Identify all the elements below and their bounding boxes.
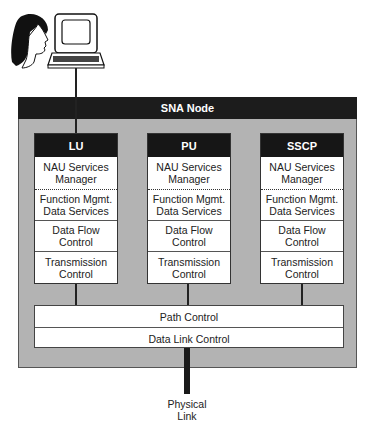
sscp-column: SSCP NAU Services Manager Function Mgmt.… (260, 133, 344, 284)
person-head-icon (8, 12, 52, 72)
sscp-connector (301, 284, 303, 305)
sscp-header: SSCP (261, 134, 343, 157)
sscp-function-mgmt-data-services: Function Mgmt. Data Services (261, 190, 343, 221)
sscp-transmission-control: Transmission Control (261, 252, 343, 283)
sscp-data-flow-control: Data Flow Control (261, 221, 343, 252)
lu-column: LU NAU Services Manager Function Mgmt. D… (34, 133, 118, 284)
path-control: Path Control (35, 306, 343, 328)
physical-link-label-line1: Physical (150, 398, 224, 410)
lu-connector (75, 284, 77, 305)
lu-data-flow-control: Data Flow Control (35, 221, 117, 252)
pu-connector (187, 284, 189, 305)
sna-node-title: SNA Node (18, 97, 357, 119)
pu-function-mgmt-data-services: Function Mgmt. Data Services (148, 190, 230, 221)
physical-link-line (184, 348, 190, 394)
lu-header: LU (35, 134, 117, 157)
pu-header: PU (148, 134, 230, 157)
pu-nau-services-manager: NAU Services Manager (148, 157, 230, 190)
physical-link-label-line2: Link (150, 410, 224, 422)
lu-transmission-control: Transmission Control (35, 252, 117, 283)
computer-terminal-icon (47, 13, 107, 70)
data-link-control: Data Link Control (35, 328, 343, 349)
shared-layers: Path Control Data Link Control (34, 305, 344, 348)
pu-data-flow-control: Data Flow Control (148, 221, 230, 252)
physical-link-label: Physical Link (150, 398, 224, 422)
lu-function-mgmt-data-services: Function Mgmt. Data Services (35, 190, 117, 221)
pu-column: PU NAU Services Manager Function Mgmt. D… (147, 133, 231, 284)
terminal-connection-line (75, 68, 77, 133)
pu-transmission-control: Transmission Control (148, 252, 230, 283)
sscp-nau-services-manager: NAU Services Manager (261, 157, 343, 190)
lu-nau-services-manager: NAU Services Manager (35, 157, 117, 190)
